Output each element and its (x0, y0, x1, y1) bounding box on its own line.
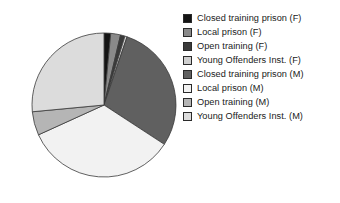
legend-item-open-training-m[interactable]: Open training (M) (183, 95, 340, 109)
legend-item-label: Young Offenders Inst. (F) (197, 55, 301, 65)
legend-swatch-icon (183, 56, 192, 65)
legend-item-label: Closed training prison (F) (197, 13, 301, 23)
pie-chart-svg (0, 0, 186, 203)
legend-swatch-icon (183, 28, 192, 37)
legend-item-closed-training-prison-m[interactable]: Closed training prison (M) (183, 67, 340, 81)
legend-swatch-icon (183, 112, 192, 121)
pie-slice[interactable] (32, 33, 104, 112)
legend-swatch-icon (183, 84, 192, 93)
legend-swatch-icon (183, 70, 192, 79)
legend-item-local-prison-f[interactable]: Local prison (F) (183, 25, 340, 39)
pie-plot-area (0, 0, 186, 203)
legend-item-open-training-f[interactable]: Open training (F) (183, 39, 340, 53)
legend-item-local-prison-m[interactable]: Local prison (M) (183, 81, 340, 95)
legend-item-label: Local prison (F) (197, 27, 262, 37)
legend-swatch-icon (183, 42, 192, 51)
legend-item-label: Local prison (M) (197, 83, 264, 93)
legend-item-label: Young Offenders Inst. (M) (197, 111, 303, 121)
chart-legend: Closed training prison (F) Local prison … (183, 11, 340, 123)
legend-item-young-offenders-inst-m[interactable]: Young Offenders Inst. (M) (183, 109, 340, 123)
legend-item-label: Closed training prison (M) (197, 69, 304, 79)
legend-item-label: Open training (F) (197, 41, 267, 51)
legend-item-closed-training-prison-f[interactable]: Closed training prison (F) (183, 11, 340, 25)
pie-slice-group (32, 33, 176, 177)
pie-chart-figure: Closed training prison (F) Local prison … (0, 0, 340, 203)
legend-item-label: Open training (M) (197, 97, 269, 107)
legend-item-young-offenders-inst-f[interactable]: Young Offenders Inst. (F) (183, 53, 340, 67)
legend-swatch-icon (183, 98, 192, 107)
legend-swatch-icon (183, 14, 192, 23)
